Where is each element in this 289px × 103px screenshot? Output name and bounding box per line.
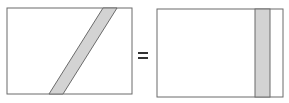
equals-sign: [138, 52, 148, 59]
diagram-canvas: [0, 0, 289, 103]
vertical-strip: [255, 9, 270, 97]
right-panel: [157, 9, 283, 97]
left-panel: [7, 8, 132, 94]
